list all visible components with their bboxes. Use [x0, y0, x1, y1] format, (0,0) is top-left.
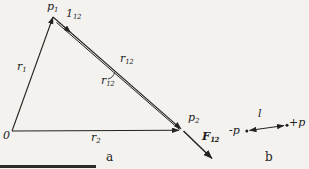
negative-charge-label: -p: [229, 125, 240, 137]
diagram-strokes: [0, 0, 309, 169]
r12-vector-label: r12: [120, 53, 133, 68]
origin-label: 0: [3, 130, 10, 142]
negative-charge-dot: [245, 130, 248, 133]
p1-label: p1: [47, 1, 58, 16]
dipole-length-arrow: [250, 126, 285, 131]
f12-force-label: F12: [202, 130, 219, 146]
unit-vector-label: 112: [66, 8, 81, 23]
r12-vector: [53, 17, 181, 129]
dipole-length-label: l: [258, 108, 262, 120]
subfigure-b-caption: b: [265, 151, 273, 164]
r1-label: r1: [17, 61, 26, 76]
figure-coulomb-dipole-diagram: p1 112 r1 r12 r12 r2 0 p2 F12 a -p l +p …: [0, 0, 309, 169]
scan-edge-artifact: [0, 165, 96, 168]
positive-charge-label: +p: [289, 117, 305, 129]
r2-label: r2: [91, 132, 100, 147]
p2-label: p2: [188, 112, 199, 127]
r12-distance-line: [57, 23, 180, 130]
subfigure-a-caption: a: [106, 151, 113, 164]
r12-distance-label: r12: [101, 75, 114, 90]
